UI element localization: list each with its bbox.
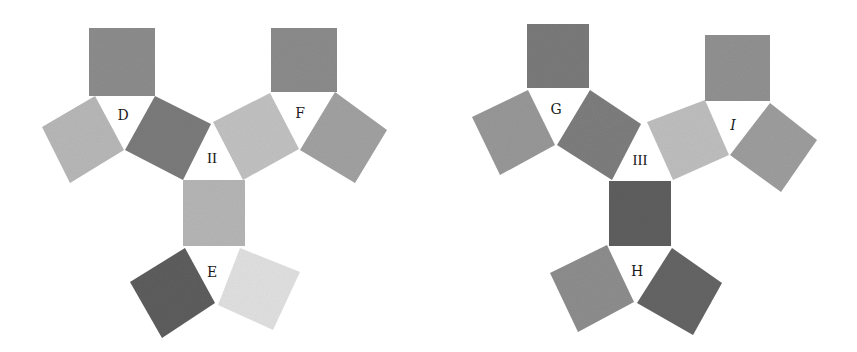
center-label-iii: III: [633, 152, 648, 168]
triangle-group-e: E: [130, 180, 300, 338]
figure-groups: DFEIIGIHIII: [42, 24, 817, 338]
square-g-top: [527, 24, 589, 88]
triangle-label-h: H: [631, 263, 643, 279]
square-f-top: [271, 28, 337, 92]
center-label-ii: II: [207, 150, 217, 166]
pinwheel-group-III: GIHIII: [472, 24, 817, 335]
triangle-label-e: E: [207, 264, 217, 280]
triangle-group-g: G: [472, 24, 641, 180]
triangle-label-d: D: [117, 107, 128, 123]
square-h-top: [609, 181, 671, 246]
diagram-canvas: DFEIIGIHIII: [0, 0, 857, 352]
triangle-group-i: I: [647, 35, 817, 192]
triangle-group-d: D: [42, 28, 211, 183]
square-i-top: [705, 35, 770, 101]
triangle-label-i: I: [729, 117, 736, 133]
square-d-top: [89, 28, 155, 96]
triangle-label-f: F: [295, 105, 305, 121]
pinwheel-group-II: DFEII: [42, 28, 387, 338]
square-e-top: [183, 180, 245, 246]
triangle-group-f: F: [213, 28, 387, 183]
triangle-label-g: G: [550, 101, 561, 117]
triangle-group-h: H: [550, 181, 722, 335]
